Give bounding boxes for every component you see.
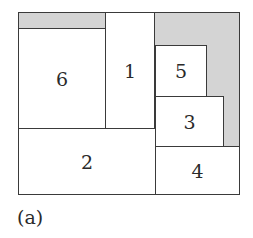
packing-diagram: 1 6 2 5 3 4 (a) [0,0,253,238]
figure-caption: (a) [17,206,43,228]
bin-outline [18,12,240,195]
